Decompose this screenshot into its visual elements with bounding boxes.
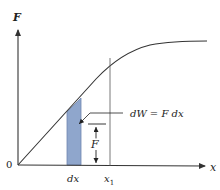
force-magnitude-label: F xyxy=(90,138,99,151)
x-axis xyxy=(18,165,205,166)
dx-label: dx xyxy=(67,173,79,184)
y-axis-label: F xyxy=(12,11,22,24)
x1-label: x1 xyxy=(104,173,114,187)
origin-label: 0 xyxy=(6,159,12,170)
force-curve xyxy=(18,41,207,165)
work-equation-label: dW = F dx xyxy=(130,108,184,119)
x1-subscript: 1 xyxy=(110,179,114,187)
leader-line xyxy=(79,113,123,124)
x-axis-label: x xyxy=(210,161,217,174)
work-force-diagram: F 0 x dx x1 F dW = F dx xyxy=(0,0,220,190)
